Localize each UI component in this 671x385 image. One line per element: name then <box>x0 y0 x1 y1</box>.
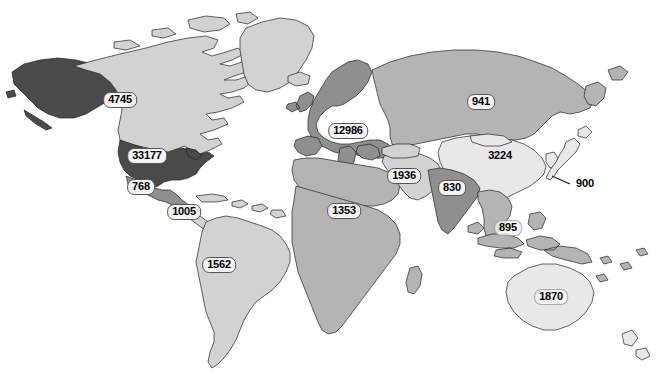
region-far-east <box>584 66 628 106</box>
data-label-japan: 900 <box>576 177 594 190</box>
japan-leader-line <box>552 176 570 184</box>
data-label-mexico: 768 <box>127 179 155 195</box>
data-label-middle-east: 1936 <box>387 168 421 184</box>
data-label-southeast-asia: 895 <box>494 220 522 236</box>
data-label-united-states: 33177 <box>127 148 167 164</box>
region-new-zealand <box>622 330 650 360</box>
data-label-south-america: 1562 <box>202 257 236 273</box>
data-label-central-america: 1005 <box>167 204 201 220</box>
region-anatolia <box>382 144 420 158</box>
world-map-figure: 4745 33177 768 1005 1562 12986 1353 1936… <box>0 0 671 385</box>
data-label-russia: 941 <box>467 94 495 110</box>
data-label-australia: 1870 <box>534 289 568 305</box>
data-label-india: 830 <box>438 180 466 196</box>
data-label-china: 3224 <box>488 149 512 162</box>
region-caribbean <box>196 194 286 218</box>
region-british-isles <box>286 92 314 112</box>
data-label-africa: 1353 <box>327 203 361 219</box>
region-pacific-islands <box>596 248 648 282</box>
data-label-canada: 4745 <box>103 92 137 108</box>
region-south-america <box>196 216 290 368</box>
region-madagascar <box>406 266 422 294</box>
data-label-europe: 12986 <box>328 123 368 139</box>
world-map-svg <box>0 0 671 385</box>
